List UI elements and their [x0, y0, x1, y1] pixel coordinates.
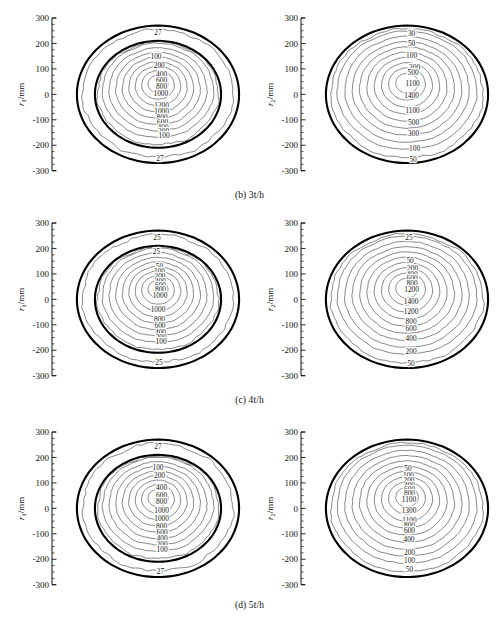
contour-label: 50	[406, 565, 414, 574]
contour-label: 200	[154, 471, 165, 480]
contour-plot-c-right: 2525505020020040040060060080080012001200…	[326, 231, 488, 368]
contour-label: 100	[156, 337, 167, 346]
contour-label: 27	[156, 154, 164, 163]
y-tick-label: -300	[282, 580, 299, 590]
y-tick-label: 100	[36, 478, 50, 488]
contour-label: 100	[409, 144, 420, 153]
y-tick-label: -200	[282, 140, 299, 150]
y-tick-label: 300	[285, 13, 299, 23]
y-tick-label: 100	[36, 269, 50, 279]
y-tick-label: 0	[294, 504, 299, 514]
contour-label: 30	[408, 29, 416, 38]
y-tick-label: -200	[33, 140, 50, 150]
y-tick-label: 200	[36, 39, 50, 49]
y-axis-title: r2/mm	[265, 497, 276, 520]
contour-plot-b-left: 2727100100200200400400600600800800100010…	[77, 26, 239, 163]
contour-label: 100	[406, 51, 417, 60]
y-tick-label: -100	[282, 320, 299, 330]
contour-label: 27	[154, 442, 162, 451]
panel-d-left: 3002001000-100-200-300r1/mm 272710010020…	[0, 410, 250, 624]
panel-b-left-svg: 3002001000-100-200-300r1/mm 272710010020…	[0, 0, 250, 205]
y-tick-label: -200	[33, 554, 50, 564]
caption-c: (c) 4t/h	[0, 395, 499, 405]
svg-text:r1/mm: r1/mm	[16, 288, 27, 311]
contour-plot-d-left: 2727100100200200400400600600800800100010…	[77, 440, 239, 577]
contour-label: 25	[153, 247, 161, 256]
y-tick-label: 100	[285, 64, 299, 74]
contour-label: 300	[408, 129, 419, 138]
y-tick-label: -200	[33, 345, 50, 355]
contour-label: 200	[154, 61, 165, 70]
contour-plot-b-right: 3030505010010030030050050011001100140014…	[326, 26, 488, 164]
y-tick-label: 100	[36, 64, 50, 74]
contour-label: 50	[409, 155, 417, 164]
y-tick-label: 0	[294, 90, 299, 100]
y-tick-label: 300	[285, 427, 299, 437]
contour-label: 100	[157, 545, 168, 554]
y-tick-label: 100	[285, 478, 299, 488]
svg-text:r2/mm: r2/mm	[265, 83, 276, 106]
y-tick-label: -300	[33, 371, 50, 381]
caption-d: (d) 5t/h	[0, 600, 499, 610]
svg-text:r1/mm: r1/mm	[16, 83, 27, 106]
contour-label: 1200	[404, 307, 419, 316]
y-tick-label: 100	[285, 269, 299, 279]
y-axis-d-left: 3002001000-100-200-300r1/mm	[16, 427, 57, 590]
panel-c-right: 3002001000-100-200-300r2/mm 252550502002…	[249, 205, 499, 410]
figure-row-d: 3002001000-100-200-300r1/mm 272710010020…	[0, 410, 499, 624]
y-axis-title: r2/mm	[265, 83, 276, 106]
contour-plot-d-right: 5050100100200200400400600600800800110011…	[326, 440, 488, 577]
y-tick-label: 0	[294, 295, 299, 305]
y-axis-title: r2/mm	[265, 288, 276, 311]
contour-label: 50	[406, 256, 414, 265]
contour-label: 25	[405, 233, 413, 242]
contour-label: 50	[407, 359, 415, 368]
y-tick-label: -100	[33, 320, 50, 330]
contour-figure: 3002001000-100-200-300r1/mm 272710010020…	[0, 0, 499, 624]
y-axis-b-right: 3002001000-100-200-300r2/mm	[265, 13, 306, 176]
y-axis-b-left: 3002001000-100-200-300r1/mm	[16, 13, 57, 176]
contour-label: 1400	[404, 297, 419, 306]
panel-c-left: 3002001000-100-200-300r1/mm 252525255050…	[0, 205, 250, 410]
y-tick-label: -300	[282, 371, 299, 381]
y-tick-label: 300	[285, 218, 299, 228]
y-tick-label: 0	[45, 90, 50, 100]
contour-label: 50	[408, 39, 416, 48]
contour-label: 1100	[405, 79, 420, 88]
y-tick-label: -100	[33, 115, 50, 125]
contour-label: 1000	[153, 291, 168, 300]
y-tick-label: -200	[282, 554, 299, 564]
y-tick-label: 200	[285, 453, 299, 463]
panel-b-left: 3002001000-100-200-300r1/mm 272710010020…	[0, 0, 250, 205]
contour-label: 1100	[402, 495, 417, 504]
y-tick-label: 0	[45, 504, 50, 514]
svg-text:r2/mm: r2/mm	[265, 288, 276, 311]
panel-d-left-svg: 3002001000-100-200-300r1/mm 272710010020…	[0, 410, 250, 624]
contour-label: 600	[406, 324, 417, 333]
contour-label: 500	[408, 118, 419, 127]
figure-row-b: 3002001000-100-200-300r1/mm 272710010020…	[0, 0, 499, 205]
y-axis-d-right: 3002001000-100-200-300r2/mm	[265, 427, 306, 590]
y-tick-label: 300	[36, 427, 50, 437]
panel-b-right: 3002001000-100-200-300r2/mm 303050501001…	[249, 0, 499, 205]
contour-label: 27	[154, 28, 162, 37]
panel-d-right-svg: 3002001000-100-200-300r2/mm 505010010020…	[249, 410, 499, 624]
y-tick-label: 200	[36, 453, 50, 463]
contour-label: 200	[406, 347, 417, 356]
panel-b-right-svg: 3002001000-100-200-300r2/mm 303050501001…	[249, 0, 499, 205]
contour-label: 27	[157, 567, 165, 576]
y-axis-title: r1/mm	[16, 497, 27, 520]
y-tick-label: -100	[282, 529, 299, 539]
contour-label: 100	[151, 52, 162, 61]
contour-label: 1000	[154, 514, 169, 523]
figure-row-c: 3002001000-100-200-300r1/mm 252525255050…	[0, 205, 499, 410]
contour-label: 25	[155, 358, 163, 367]
y-tick-label: -300	[33, 166, 50, 176]
contour-line	[337, 31, 477, 149]
y-tick-label: 200	[285, 39, 299, 49]
contour-label: 400	[404, 535, 415, 544]
contour-label: 1000	[154, 89, 169, 98]
y-tick-label: -100	[282, 115, 299, 125]
y-axis-c-left: 3002001000-100-200-300r1/mm	[16, 218, 57, 381]
svg-text:r2/mm: r2/mm	[265, 497, 276, 520]
